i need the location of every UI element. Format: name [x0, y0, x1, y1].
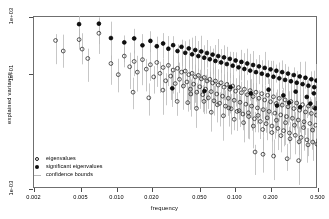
- x-axis-tick: [34, 188, 35, 192]
- x-axis-tick: [117, 188, 118, 192]
- y-axis-tick-label: 1e+03: [8, 2, 14, 30]
- legend-label: confidence bounds: [46, 171, 93, 177]
- filled-circle-icon: [35, 165, 39, 169]
- x-axis-tick: [271, 188, 272, 192]
- vertical-line-icon: [34, 175, 41, 176]
- x-axis-tick-label: 0.002: [18, 194, 50, 200]
- x-axis-title: frequency: [0, 205, 329, 211]
- open-circle-icon: [35, 157, 39, 161]
- legend-item-confidence-bounds: confidence bounds: [33, 171, 143, 179]
- legend: eigenvalues significant eigenvalues conf…: [33, 155, 143, 179]
- x-axis-tick-label: 0.200: [255, 194, 287, 200]
- x-axis-tick: [200, 188, 201, 192]
- chart-figure: frequency explained variance 0.0020.0050…: [0, 0, 329, 219]
- x-axis-tick-label: 0.050: [184, 194, 216, 200]
- x-axis-tick: [235, 188, 236, 192]
- legend-label: significant eigenvalues: [46, 163, 103, 169]
- legend-label: eigenvalues: [46, 155, 76, 161]
- y-axis-tick-label: 1e+01: [8, 59, 14, 87]
- y-axis-tick: [29, 189, 33, 190]
- legend-item-eigenvalues: eigenvalues: [33, 155, 143, 163]
- x-axis-tick-label: 0.500: [302, 194, 329, 200]
- x-axis-tick: [81, 188, 82, 192]
- x-axis-tick: [152, 188, 153, 192]
- x-axis-tick-label: 0.005: [65, 194, 97, 200]
- y-axis-tick: [29, 74, 33, 75]
- x-axis-tick: [318, 188, 319, 192]
- y-axis-tick: [29, 17, 33, 18]
- x-axis-tick-label: 0.010: [101, 194, 133, 200]
- y-axis-tick-label: 1e-03: [8, 174, 14, 202]
- x-axis-tick-label: 0.100: [219, 194, 251, 200]
- x-axis-tick-label: 0.020: [136, 194, 168, 200]
- legend-item-significant-eigenvalues: significant eigenvalues: [33, 163, 143, 171]
